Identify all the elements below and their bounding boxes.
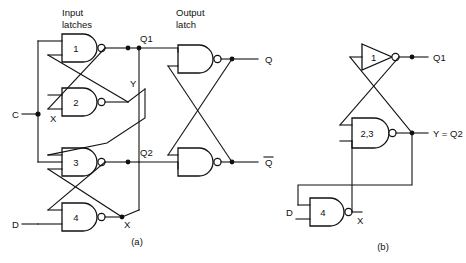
input-label-c: C (12, 109, 19, 120)
gate-b23-label: 2,3 (360, 128, 373, 139)
gate-6-output-latch-bottom (178, 148, 221, 176)
gate-1-label: 1 (73, 43, 78, 54)
output-label-qbar: Q (265, 157, 272, 168)
gate-b4-label: 4 (320, 207, 325, 218)
figure-canvas: Input latches Output latch 1 Q1 2 Y (0, 0, 466, 263)
output-latch-caption-line1: Output (176, 7, 205, 18)
net-label-x-upper: X (50, 113, 57, 124)
net-label-b-y: Y = Q2 (433, 128, 463, 139)
gate-b4: 4 (310, 198, 352, 226)
subfigure-label-a: (a) (131, 236, 143, 247)
gate-5-output-latch-top (178, 45, 221, 73)
net-label-q1: Q1 (140, 33, 153, 44)
output-latch-caption-line2: latch (176, 19, 196, 30)
subfigure-label-b: (b) (377, 241, 389, 252)
gate-3-label: 3 (73, 157, 78, 168)
net-label-b-x: X (357, 215, 364, 226)
circuit-diagram-svg: Input latches Output latch 1 Q1 2 Y (0, 0, 466, 263)
input-latches-caption-line2: latches (62, 19, 92, 30)
diagram-b: 1 Q1 2,3 Y = Q2 4 D X (286, 44, 463, 252)
diagram-a: Input latches Output latch 1 Q1 2 Y (12, 7, 273, 231)
input-label-b-d: D (286, 207, 293, 218)
gate-4: 4 (62, 203, 105, 231)
net-label-x-lower: X (124, 219, 131, 230)
gate-b1-inverter: 1 (362, 44, 399, 70)
net-label-q2: Q2 (140, 147, 153, 158)
gate-2-label: 2 (73, 97, 78, 108)
output-label-q: Q (265, 54, 272, 65)
gate-2: 2 (62, 88, 105, 116)
net-label-y: Y (130, 78, 137, 89)
gate-3: 3 (62, 148, 105, 176)
gate-1: 1 (62, 34, 105, 62)
gate-4-label: 4 (73, 212, 78, 223)
gate-b23: 2,3 (352, 118, 396, 148)
gate-b1-label: 1 (371, 52, 376, 63)
net-label-b-q1: Q1 (433, 52, 446, 63)
input-label-d: D (12, 219, 19, 230)
input-latches-caption-line1: Input (62, 7, 83, 18)
